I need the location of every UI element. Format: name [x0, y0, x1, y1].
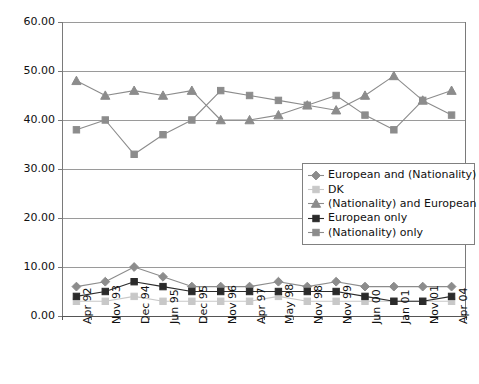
data-point-square	[160, 283, 166, 289]
data-point-square	[246, 298, 252, 304]
data-point-square	[333, 298, 339, 304]
data-point-square	[160, 132, 166, 138]
data-point-square	[131, 293, 137, 299]
line-chart: 0.0010.0020.0030.0040.0050.0060.00Apr 92…	[0, 0, 479, 384]
legend-marker-diamond-icon	[308, 169, 324, 182]
data-point-square	[448, 293, 454, 299]
legend-item[interactable]: European only	[308, 211, 468, 225]
x-axis-tick-label: Jan 01	[399, 290, 412, 324]
chart-legend: European and (Nationality)DK(Nationality…	[302, 163, 475, 245]
legend-marker-triangle-icon	[308, 197, 324, 210]
y-axis-tick-label: 20.00	[24, 211, 56, 224]
data-point-square	[102, 298, 108, 304]
legend-item-label: DK	[328, 184, 344, 196]
data-point-square	[189, 288, 195, 294]
data-point-square	[246, 288, 252, 294]
data-point-square	[362, 112, 368, 118]
data-point-square	[313, 215, 319, 221]
y-axis-tick-label: 50.00	[24, 64, 56, 77]
x-axis-tick-label: Jun 00	[370, 289, 383, 324]
data-point-square	[246, 92, 252, 98]
data-point-square	[189, 298, 195, 304]
data-point-square	[102, 288, 108, 294]
data-point-square	[131, 279, 137, 285]
data-point-square	[218, 87, 224, 93]
x-axis-tick-label: Dec 94	[139, 285, 152, 324]
data-point-square	[218, 288, 224, 294]
legend-item-label: (Nationality) and European	[328, 198, 476, 210]
x-axis-tick-label: Nov 96	[226, 285, 239, 324]
data-point-square	[448, 112, 454, 118]
y-axis-tick-label: 60.00	[24, 15, 56, 28]
y-axis-tick-label: 10.00	[24, 260, 56, 273]
y-axis-tick-label: 40.00	[24, 113, 56, 126]
data-point-square	[304, 102, 310, 108]
data-point-square	[362, 293, 368, 299]
x-axis-tick-label: Nov 98	[312, 285, 325, 324]
data-point-square	[304, 288, 310, 294]
data-point-square	[304, 298, 310, 304]
legend-item[interactable]: (Nationality) and European	[308, 197, 468, 211]
legend-marker-square-icon	[308, 226, 324, 239]
data-point-square	[218, 298, 224, 304]
x-axis-tick-label: Dec 95	[197, 285, 210, 324]
legend-item-label: European only	[328, 212, 407, 224]
legend-marker-square-icon	[308, 183, 324, 196]
legend-item[interactable]: DK	[308, 182, 468, 196]
y-axis-tick-label: 30.00	[24, 162, 56, 175]
x-axis-tick-label: Nov 93	[110, 285, 123, 324]
legend-item-label: European and (Nationality)	[328, 169, 476, 181]
x-axis-tick-label: Apr 97	[255, 287, 268, 324]
data-point-square	[420, 298, 426, 304]
x-axis-tick-label: Apr 92	[81, 287, 94, 324]
data-point-square	[391, 298, 397, 304]
x-axis-tick-label: Nov 99	[341, 285, 354, 324]
data-point-square	[391, 127, 397, 133]
data-point-square	[189, 117, 195, 123]
data-point-square	[313, 230, 319, 236]
data-point-square	[131, 151, 137, 157]
data-point-square	[73, 127, 79, 133]
data-point-diamond	[312, 171, 321, 180]
y-axis-tick-label: 0.00	[31, 309, 56, 322]
data-point-square	[275, 97, 281, 103]
data-point-square	[102, 117, 108, 123]
data-point-square	[313, 186, 319, 192]
legend-item-label: (Nationality) only	[328, 227, 423, 239]
legend-item[interactable]: European and (Nationality)	[308, 168, 468, 182]
data-point-square	[333, 92, 339, 98]
data-point-square	[73, 293, 79, 299]
x-axis-tick-label: Nov 01	[428, 285, 441, 324]
legend-marker-square-icon	[308, 212, 324, 225]
data-point-square	[275, 288, 281, 294]
legend-item[interactable]: (Nationality) only	[308, 226, 468, 240]
data-point-square	[333, 288, 339, 294]
x-axis-tick-label: May 98	[283, 284, 296, 324]
data-point-square	[420, 97, 426, 103]
x-axis-tick-label: Apr 04	[457, 287, 470, 324]
x-axis-tick-label: Jun 95	[168, 289, 181, 324]
data-point-square	[160, 298, 166, 304]
